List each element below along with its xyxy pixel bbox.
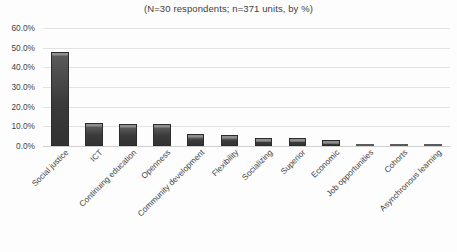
chart-title: (N=30 respondents; n=371 units, by %) [0, 3, 457, 14]
y-axis-tick-label: 10.0% [11, 121, 35, 131]
y-axis-tick-label: 50.0% [11, 43, 35, 53]
y-axis: 0.0%10.0%20.0%30.0%40.0%50.0%60.0% [0, 28, 40, 146]
y-axis-tick-label: 40.0% [11, 62, 35, 72]
x-axis-tick-text: Social justice [30, 148, 70, 188]
bar-chart: (N=30 respondents; n=371 units, by %) 0.… [0, 0, 457, 252]
x-axis-tick-text: Asynchronous learning [378, 148, 443, 213]
bar-slot [111, 28, 145, 146]
bar[interactable] [51, 52, 69, 146]
y-axis-tick-label: 60.0% [11, 23, 35, 33]
y-axis-tick-label: 20.0% [11, 102, 35, 112]
x-axis-tick-text: ICT [89, 148, 105, 164]
x-axis-tick-text: Continuing education [77, 148, 138, 209]
y-axis-tick-label: 0.0% [16, 141, 35, 151]
x-axis: Social justiceICTContinuing educationOpe… [43, 148, 450, 248]
x-axis-tick-text: Openness [139, 148, 172, 181]
x-axis-tick-text: Socializing [240, 148, 274, 182]
bar[interactable] [119, 124, 137, 146]
x-axis-tick-text: Community development [136, 148, 206, 218]
x-axis-tick-text: Economic [310, 148, 342, 180]
x-axis-tick-text: Flexibility [210, 148, 240, 178]
x-axis-tick-text: Superior [280, 148, 308, 176]
y-axis-tick-label: 30.0% [11, 82, 35, 92]
x-axis-tick-text: Cohorts [383, 148, 410, 175]
bar-slot [43, 28, 77, 146]
